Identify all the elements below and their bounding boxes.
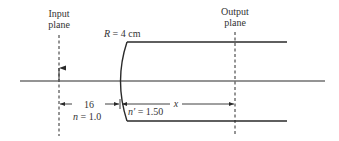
radius-symbol: R (103, 28, 110, 39)
index-right-value: = 1.50 (135, 106, 163, 117)
index-left-label: n = 1.0 (73, 111, 101, 122)
radius-label: R = 4 cm (103, 28, 141, 39)
index-left-value: = 1.0 (78, 111, 101, 122)
refracting-surface-diagram: Input plane Output plane R = 4 cm 16 x n… (0, 0, 339, 141)
output-plane-label-line1: Output (221, 6, 249, 17)
input-plane-label-line1: Input (48, 8, 69, 19)
output-plane-label-line2: plane (224, 17, 246, 28)
distance-16-label: 16 (84, 99, 94, 110)
radius-value: = 4 cm (110, 28, 141, 39)
index-right-label: n′ = 1.50 (128, 106, 163, 117)
distance-x-label: x (173, 98, 179, 109)
input-plane-label-line2: plane (48, 19, 70, 30)
